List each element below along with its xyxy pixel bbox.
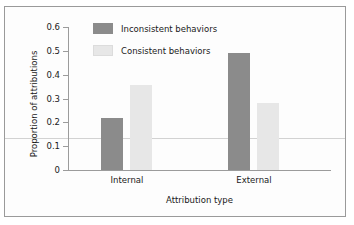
y-tick-label-0.6: 0.6 — [46, 23, 60, 32]
plot-area: 0.6 0.5 0.4 0.3 0.2 0.1 0 Internal Exter… — [0, 0, 354, 225]
y-tick-label-0.4: 0.4 — [46, 71, 60, 80]
reference-line — [5, 138, 345, 139]
legend-item-inconsistent: Inconsistent behaviors — [93, 21, 217, 36]
legend-label-inconsistent: Inconsistent behaviors — [121, 24, 217, 34]
legend-swatch-icon-consistent — [93, 45, 113, 56]
y-tick-label-0.1: 0.1 — [46, 142, 60, 151]
y-axis-line — [68, 27, 69, 171]
legend-item-consistent: Consistent behaviors — [93, 43, 217, 58]
y-tick-0.2 — [63, 122, 68, 123]
legend-swatch-icon-inconsistent — [93, 23, 113, 34]
x-axis-line — [68, 170, 331, 171]
chart-figure: 0.6 0.5 0.4 0.3 0.2 0.1 0 Internal Exter… — [0, 0, 354, 225]
y-tick-0.4 — [63, 75, 68, 76]
y-tick-0 — [63, 170, 68, 171]
y-tick-0.6 — [63, 27, 68, 28]
y-tick-0.5 — [63, 51, 68, 52]
x-axis-title: Attribution type — [68, 195, 331, 205]
y-tick-label-0.5: 0.5 — [46, 47, 60, 56]
x-category-label-internal: Internal — [97, 175, 157, 185]
legend-label-consistent: Consistent behaviors — [121, 46, 210, 56]
y-tick-0.3 — [63, 99, 68, 100]
y-tick-label-0.2: 0.2 — [46, 118, 60, 127]
bar-internal-inconsistent — [101, 118, 123, 170]
chart-legend: Inconsistent behaviors Consistent behavi… — [93, 21, 217, 65]
bar-external-consistent — [257, 103, 279, 170]
y-tick-0.1 — [63, 146, 68, 147]
x-category-label-external: External — [224, 175, 284, 185]
y-tick-label-0: 0 — [55, 166, 60, 175]
y-tick-label-0.3: 0.3 — [46, 95, 60, 104]
y-axis-title: Proportion of attributions — [29, 34, 39, 174]
bar-external-inconsistent — [228, 53, 250, 170]
bar-internal-consistent — [130, 85, 152, 170]
